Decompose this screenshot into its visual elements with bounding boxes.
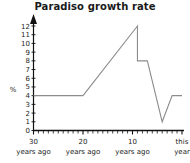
x-axis-tick-label-unit: years ago (115, 148, 150, 156)
x-axis-tick-label-unit: year (174, 148, 190, 156)
chart-container: Paradiso growth rate 0123456789101112 30… (0, 0, 190, 163)
y-axis-label: % (10, 86, 17, 94)
x-axis-tick-label-unit: years ago (16, 148, 51, 156)
y-axis-tick-labels: 0123456789101112 (21, 23, 30, 136)
x-axis-tick-label-value: 20 (79, 138, 88, 146)
y-axis-tick-label: 3 (26, 101, 30, 109)
chart-plot-area: 0123456789101112 30years ago20years ago1… (0, 0, 190, 163)
y-axis-tick-label: 12 (21, 23, 30, 31)
x-axis-tick-label-value: 30 (29, 138, 38, 146)
y-axis-tick-label: 9 (26, 49, 30, 57)
y-axis-tick-label: 10 (21, 40, 30, 48)
x-axis-tick-label-value: this (176, 138, 189, 146)
x-axis-tick-labels: 30years ago20years ago10years agothisyea… (16, 138, 190, 156)
y-axis-tick-label: 0 (26, 127, 30, 135)
y-axis-tick-label: 11 (21, 31, 30, 39)
y-axis-tick-label: 6 (26, 75, 31, 83)
x-axis-tick-label-unit: years ago (66, 148, 101, 156)
data-series-line (34, 26, 183, 122)
x-axis-tick-label-value: 10 (128, 138, 137, 146)
y-axis-tick-label: 4 (26, 92, 31, 100)
y-axis-tick-label: 1 (26, 118, 30, 126)
y-axis-tick-label: 2 (26, 110, 30, 118)
y-axis-tick-label: 8 (26, 57, 30, 65)
y-axis-tick-label: 5 (26, 83, 30, 91)
arrow-up-icon (30, 14, 37, 24)
y-axis-tick-label: 7 (26, 66, 30, 74)
